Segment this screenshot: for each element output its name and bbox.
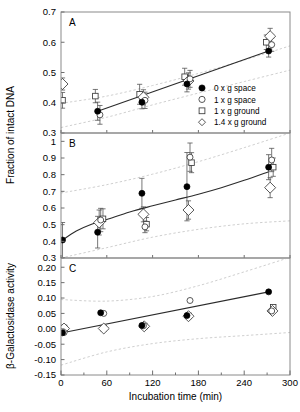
y-tick-label-C: 0.10 bbox=[38, 292, 57, 303]
y-tick-label-B: 0.7 bbox=[43, 186, 56, 197]
panel-B: 0.30.40.50.60.70.80.91B bbox=[43, 133, 290, 263]
data-point-filled-circle bbox=[98, 310, 104, 316]
y-tick-label-A: 0.7 bbox=[43, 6, 56, 17]
y-axis-title-bottom: β-Galactosidase activity bbox=[5, 263, 16, 369]
y-axis-title-top: Fraction of intact DNA bbox=[5, 86, 16, 184]
confidence-band-upper bbox=[61, 133, 290, 193]
y-tick-label-B: 0.4 bbox=[43, 236, 56, 247]
data-point-open-square bbox=[189, 160, 195, 166]
y-tick-label-A: 0.5 bbox=[43, 67, 56, 78]
data-point-filled-circle bbox=[60, 237, 66, 243]
legend-item[interactable]: 1 x g space bbox=[199, 96, 256, 105]
panel-letter-A: A bbox=[69, 17, 76, 28]
x-tick-label: 300 bbox=[282, 377, 298, 388]
data-point-open-circle bbox=[269, 157, 275, 163]
data-point-filled-circle bbox=[139, 322, 145, 328]
data-point-filled-circle bbox=[139, 99, 145, 105]
data-point-filled-circle bbox=[95, 229, 101, 235]
legend-item[interactable]: 1.4 x g ground bbox=[199, 118, 267, 127]
y-tick-label-C: -0.05 bbox=[34, 339, 56, 350]
panel-inner bbox=[59, 257, 290, 365]
legend-label: 1 x g space bbox=[214, 96, 256, 105]
x-tick-label: 240 bbox=[236, 377, 252, 388]
confidence-band-lower bbox=[61, 333, 290, 366]
x-axis-title: Incubation time (min) bbox=[129, 391, 222, 402]
data-point-open-diamond bbox=[183, 205, 194, 216]
data-point-filled-circle bbox=[95, 108, 101, 114]
data-point-filled-circle bbox=[184, 81, 190, 87]
x-tick-label: 120 bbox=[145, 377, 161, 388]
x-tick-label: 60 bbox=[102, 377, 113, 388]
data-point-open-diamond bbox=[138, 209, 149, 220]
series-open-square bbox=[60, 39, 269, 103]
y-tick-label-A: 0.6 bbox=[43, 37, 56, 48]
data-point-open-circle bbox=[142, 224, 148, 230]
y-tick-label-C: -0.10 bbox=[34, 354, 56, 365]
x-tick-label: 0 bbox=[58, 377, 63, 388]
series-open-circle bbox=[61, 297, 275, 335]
series-open-diamond bbox=[59, 305, 278, 334]
data-point-open-circle bbox=[98, 217, 104, 223]
x-tick-label: 180 bbox=[190, 377, 206, 388]
panel-C: -0.15-0.10-0.050.000.050.100.150.2006012… bbox=[34, 257, 298, 388]
y-tick-label-B: 0.9 bbox=[43, 152, 56, 163]
y-tick-label-B: 1 bbox=[51, 136, 56, 147]
legend-label: 1.4 x g ground bbox=[214, 118, 267, 127]
data-point-open-circle bbox=[187, 154, 193, 160]
legend-item[interactable]: 0 x g space bbox=[199, 84, 256, 93]
y-tick-label-C: 0.00 bbox=[38, 323, 57, 334]
series-filled-circle bbox=[60, 164, 272, 243]
legend-item[interactable]: 1 x g ground bbox=[199, 107, 260, 116]
y-tick-label-B: 0.8 bbox=[43, 169, 56, 180]
data-point-filled-circle bbox=[139, 190, 145, 196]
legend-label: 0 x g space bbox=[214, 84, 256, 93]
data-point-open-diamond bbox=[98, 323, 109, 334]
regression-fit-line bbox=[63, 172, 269, 240]
data-point-filled-circle bbox=[266, 164, 272, 170]
data-point-filled-circle bbox=[266, 48, 272, 54]
y-tick-label-B: 0.5 bbox=[43, 219, 56, 230]
panel-inner bbox=[60, 133, 290, 258]
y-tick-label-C: 0.05 bbox=[38, 308, 57, 319]
multi-panel-scatter-figure: 0.30.40.50.60.7A0.30.40.50.60.70.80.91B-… bbox=[0, 0, 300, 412]
data-point-filled-circle bbox=[266, 289, 272, 295]
legend-open-square-icon bbox=[199, 108, 205, 114]
data-point-open-circle bbox=[269, 42, 275, 48]
legend-open-circle-icon bbox=[199, 96, 205, 102]
figure-container: 0.30.40.50.60.7A0.30.40.50.60.70.80.91B-… bbox=[0, 0, 300, 412]
y-tick-label-C: -0.15 bbox=[34, 369, 56, 380]
y-tick-label-C: 0.15 bbox=[38, 277, 57, 288]
data-point-open-diamond bbox=[57, 79, 68, 90]
data-point-filled-circle bbox=[184, 184, 190, 190]
data-point-open-circle bbox=[187, 297, 193, 303]
data-point-open-diamond bbox=[265, 182, 276, 193]
y-tick-label-B: 0.6 bbox=[43, 202, 56, 213]
legend-filled-circle-icon bbox=[199, 85, 205, 91]
panel-letter-C: C bbox=[69, 263, 76, 274]
series-open-circle bbox=[98, 154, 275, 230]
data-point-open-square bbox=[93, 93, 99, 99]
confidence-band-lower bbox=[61, 221, 290, 258]
plot-frame-B bbox=[61, 133, 290, 258]
legend-label: 1 x g ground bbox=[214, 107, 260, 116]
regression-fit-line bbox=[63, 292, 269, 333]
data-point-filled-circle bbox=[184, 313, 190, 319]
y-tick-label-C: 0.20 bbox=[38, 262, 57, 273]
panel-letter-B: B bbox=[69, 138, 76, 149]
data-point-open-circle bbox=[269, 308, 275, 314]
data-point-filled-circle bbox=[60, 330, 66, 336]
plot-frame-C bbox=[61, 258, 290, 375]
legend-open-diamond-icon bbox=[199, 119, 206, 126]
y-tick-label-A: 0.4 bbox=[43, 97, 56, 108]
